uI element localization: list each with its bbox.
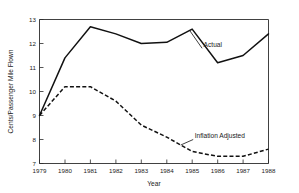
series-label-inflation-adjusted: Inflation Adjusted — [195, 132, 246, 140]
x-tick-label: 1988 — [262, 167, 276, 174]
y-axis-ticks — [40, 20, 44, 164]
y-tick-label: 12 — [29, 40, 36, 47]
y-tick-label: 10 — [29, 88, 36, 95]
y-axis-tick-labels: 13 12 11 10 9 8 7 — [29, 16, 36, 167]
x-tick-label: 1983 — [134, 167, 148, 174]
x-tick-label: 1984 — [160, 167, 174, 174]
x-tick-label: 1982 — [109, 167, 123, 174]
chart-figure: 13 12 11 10 9 8 7 1979 1980 1981 1982 — [0, 0, 299, 193]
series-line-actual — [40, 27, 269, 116]
x-tick-label: 1980 — [58, 167, 72, 174]
y-tick-label: 9 — [33, 112, 37, 119]
x-tick-label: 1987 — [236, 167, 250, 174]
x-axis-tick-labels: 1979 1980 1981 1982 1983 1984 1985 1986 … — [33, 167, 276, 174]
annotation-inflation-adjusted: Inflation Adjusted — [181, 132, 246, 145]
series-label-actual: Actual — [204, 41, 223, 48]
y-tick-label: 13 — [29, 16, 36, 23]
x-tick-label: 1981 — [84, 167, 98, 174]
x-tick-label: 1985 — [185, 167, 199, 174]
y-axis-title: Cents/Passenger Mile Flown — [7, 49, 15, 133]
y-tick-label: 8 — [33, 136, 37, 143]
x-axis-ticks — [40, 160, 269, 164]
y-tick-label: 11 — [30, 64, 37, 71]
series-line-inflation-adjusted — [40, 87, 269, 157]
line-chart: 13 12 11 10 9 8 7 1979 1980 1981 1982 — [0, 0, 299, 193]
x-tick-label: 1986 — [211, 167, 225, 174]
axes-frame — [40, 20, 269, 164]
x-axis-title: Year — [147, 180, 161, 187]
x-tick-label: 1979 — [33, 167, 47, 174]
